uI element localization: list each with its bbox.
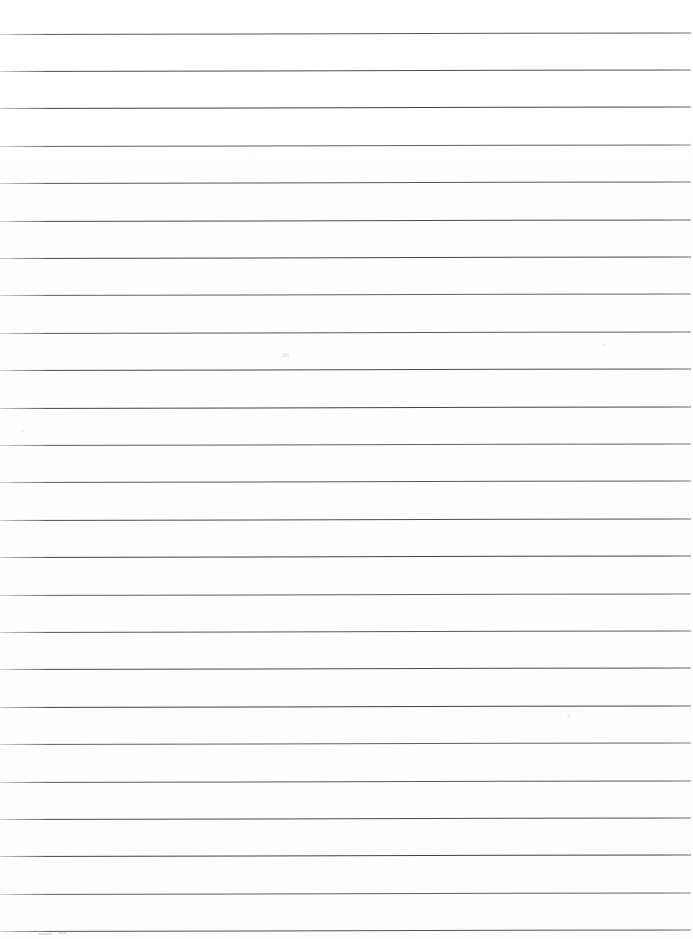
rule-line [0,780,691,783]
rule-line [0,705,691,708]
rule-line [0,107,691,110]
rule-line [0,817,691,820]
rule-line [0,892,691,895]
rule-line [0,481,691,484]
rule-line [0,668,691,671]
upper-right-speck [603,343,606,346]
left-margin-speck [21,430,24,432]
scanned-page [0,0,693,939]
rule-line [0,593,691,596]
rule-line [0,556,691,559]
rule-line [0,144,691,147]
rule-line [0,182,691,185]
mid-page-speck [282,353,289,357]
rule-line [0,630,691,633]
rule-line [0,443,691,446]
rule-line [0,743,691,746]
rule-line [0,219,691,222]
bottom-left-smudge [38,933,52,935]
rule-line [0,930,691,933]
rule-line [0,331,691,334]
rule-line [0,369,691,372]
bottom-left-smudge-2 [58,932,67,934]
rule-line [0,294,691,297]
rule-line [0,256,691,259]
lower-right-speck [567,714,571,717]
rule-line [0,855,691,858]
rule-line [0,406,691,409]
rule-line [0,32,691,35]
rule-line [0,518,691,521]
rule-line [0,69,691,72]
paper-surface [0,0,693,939]
